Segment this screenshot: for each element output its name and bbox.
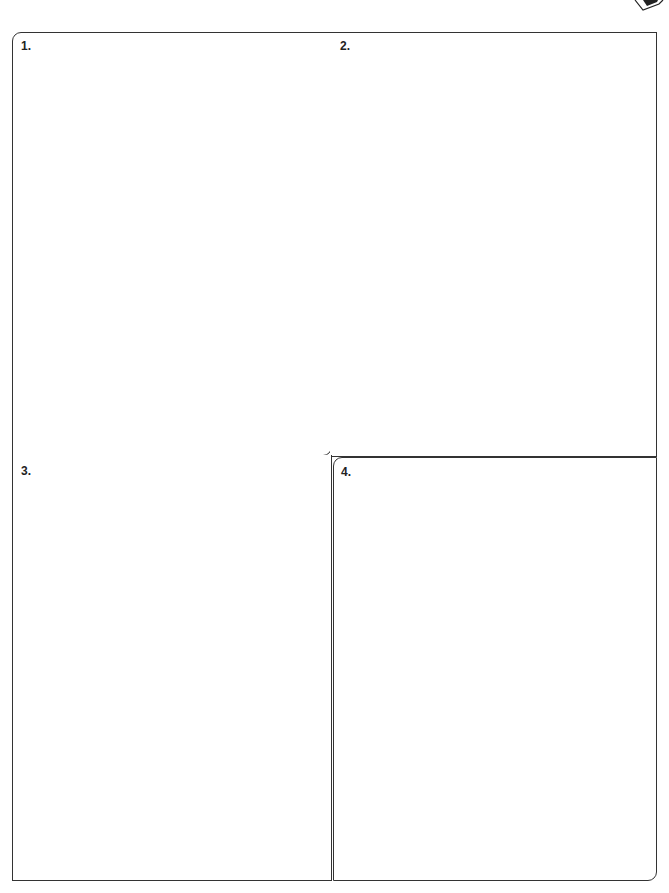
- panel-1[interactable]: 1.: [12, 32, 332, 456]
- panel-4[interactable]: 4.: [333, 457, 657, 881]
- panel-1-label: 1.: [21, 39, 31, 53]
- panel-2-label: 2.: [340, 39, 350, 53]
- pencil-corner-icon: [629, 0, 669, 12]
- panel-3[interactable]: 3.: [12, 455, 332, 881]
- panel-4-label: 4.: [341, 465, 351, 479]
- panel-3-label: 3.: [21, 464, 31, 478]
- panel-2[interactable]: 2.: [330, 32, 657, 457]
